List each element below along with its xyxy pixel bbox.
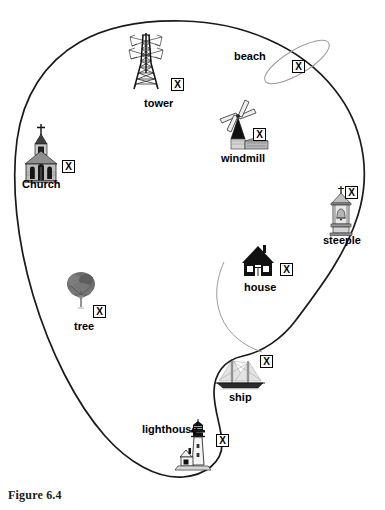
checkbox-marker-lighthouse[interactable]: X	[216, 434, 229, 447]
figure-caption: Figure 6.4	[8, 488, 62, 503]
feature-label-tower: tower	[144, 97, 173, 109]
checkbox-marker-church[interactable]: X	[62, 160, 75, 173]
checkbox-marker-tree[interactable]: X	[93, 305, 106, 318]
checkbox-marker-windmill[interactable]: X	[253, 128, 266, 141]
checkbox-marker-house[interactable]: X	[280, 263, 293, 276]
feature-label-beach: beach	[234, 50, 266, 62]
coastline-path	[15, 21, 365, 477]
feature-label-house: house	[244, 281, 276, 293]
feature-label-ship: ship	[229, 391, 252, 403]
feature-label-lighthouse: lighthouse	[142, 423, 198, 435]
checkbox-marker-steeple[interactable]: X	[345, 186, 358, 199]
feature-label-windmill: windmill	[221, 152, 265, 164]
figure-6-4: tower X beach X windmill X Church X stee…	[0, 0, 385, 510]
feature-label-steeple: steeple	[323, 234, 361, 246]
checkbox-marker-beach[interactable]: X	[292, 60, 305, 73]
feature-label-church: Church	[22, 178, 61, 190]
feature-label-tree: tree	[74, 320, 94, 332]
checkbox-marker-tower[interactable]: X	[171, 78, 184, 91]
checkbox-marker-ship[interactable]: X	[260, 355, 273, 368]
